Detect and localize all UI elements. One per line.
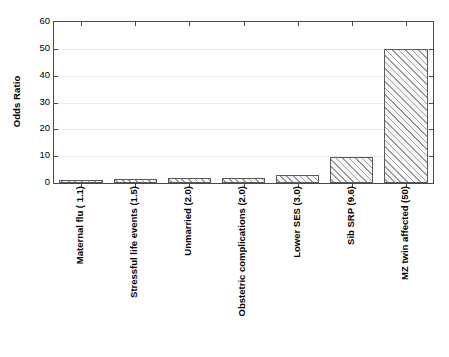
- y-tick-mark-right: [429, 183, 433, 184]
- x-tick-mark-top: [352, 22, 353, 26]
- x-tick-mark-top: [406, 22, 407, 26]
- y-tick-mark: [54, 156, 58, 157]
- x-axis-tick-labels: Maternal flu ( 1.1)Stressful life events…: [53, 186, 432, 357]
- bar: [384, 49, 427, 183]
- x-tick-cell: Sib SRP (9.6): [324, 186, 378, 357]
- x-tick-cell: Unmarried (2.0): [161, 186, 215, 357]
- y-tick-mark-right: [429, 49, 433, 50]
- y-tick-label: 30: [26, 97, 50, 107]
- y-axis-tick-labels: 0102030405060: [26, 21, 50, 182]
- x-tick-cell: Lower SES (3.0): [270, 186, 324, 357]
- y-axis-title: Odds Ratio: [6, 21, 28, 182]
- x-tick-label: Maternal flu ( 1.1): [75, 186, 85, 264]
- y-tick-label: 60: [26, 16, 50, 26]
- x-tick-mark-top: [81, 22, 82, 26]
- x-tick-cell: Stressful life events (1.5): [107, 186, 161, 357]
- y-tick-mark: [54, 129, 58, 130]
- x-tick-label: Lower SES (3.0): [292, 186, 302, 258]
- x-tick-cell: Obstetric complications (2.0): [215, 186, 269, 357]
- y-tick-mark: [54, 183, 58, 184]
- x-tick-cell: MZ twin affected (50): [378, 186, 432, 357]
- y-tick-mark-right: [429, 156, 433, 157]
- y-tick-label: 20: [26, 124, 50, 134]
- x-tick-mark-top: [244, 22, 245, 26]
- x-tick-label: Unmarried (2.0): [184, 186, 194, 256]
- y-axis-title-text: Odds Ratio: [12, 76, 23, 128]
- y-tick-mark-right: [429, 103, 433, 104]
- bar: [276, 175, 319, 183]
- y-tick-label: 0: [26, 177, 50, 187]
- x-tick-label: Obstetric complications (2.0): [238, 186, 248, 316]
- gridline: [54, 49, 433, 50]
- y-tick-label: 10: [26, 150, 50, 160]
- gridline: [54, 129, 433, 130]
- plot-area: [53, 21, 434, 184]
- y-tick-label: 40: [26, 70, 50, 80]
- bar: [330, 157, 373, 183]
- x-tick-mark-top: [135, 22, 136, 26]
- x-tick-mark-top: [189, 22, 190, 26]
- y-tick-mark-right: [429, 76, 433, 77]
- gridline: [54, 156, 433, 157]
- gridline: [54, 103, 433, 104]
- gridline: [54, 76, 433, 77]
- y-tick-label: 50: [26, 43, 50, 53]
- odds-ratio-bar-chart: Odds Ratio 0102030405060 Maternal flu ( …: [0, 0, 449, 357]
- y-tick-mark: [54, 49, 58, 50]
- y-tick-mark: [54, 76, 58, 77]
- x-tick-mark-top: [298, 22, 299, 26]
- y-tick-mark-right: [429, 129, 433, 130]
- x-tick-label: Stressful life events (1.5): [129, 186, 139, 298]
- y-tick-mark: [54, 103, 58, 104]
- x-tick-label: MZ twin affected (50): [400, 186, 410, 280]
- x-tick-cell: Maternal flu ( 1.1): [53, 186, 107, 357]
- plot-inner: [54, 22, 433, 183]
- x-tick-label: Sib SRP (9.6): [346, 186, 356, 245]
